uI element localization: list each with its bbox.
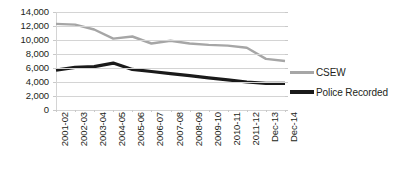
y-axis-tick-label: 12,000 <box>21 21 49 31</box>
gridline <box>56 54 285 55</box>
y-axis-tick-mark <box>53 96 56 97</box>
y-axis-tick-mark <box>53 68 56 69</box>
line-chart: 14,00012,00010,0008,0006,0004,0002,0000 … <box>0 0 402 172</box>
y-axis-tick-label: 8,000 <box>26 49 49 59</box>
y-axis-tick-label: 6,000 <box>26 63 49 73</box>
y-axis-tick-label: 2,000 <box>26 91 49 101</box>
x-axis-tick-label: 2009-10 <box>213 112 223 146</box>
x-axis-tick-mark <box>190 110 191 112</box>
y-axis-tick-mark <box>53 40 56 41</box>
x-axis-tick-mark <box>151 110 152 112</box>
x-axis-tick-mark <box>266 110 267 112</box>
y-axis-tick-label: 10,000 <box>21 35 49 45</box>
legend-label-police-recorded: Police Recorded <box>316 87 388 98</box>
x-axis-tick-label: Dec-13 <box>270 112 280 142</box>
x-axis-tick-label: Dec-14 <box>289 112 299 142</box>
y-axis-tick-mark <box>53 82 56 83</box>
gridline <box>56 96 285 97</box>
gridline <box>56 82 285 83</box>
series-line-police-recorded <box>56 63 285 83</box>
x-axis-tick-label: 2005-06 <box>136 112 146 146</box>
x-axis-tick-mark <box>75 110 76 112</box>
x-axis-tick-label: 2002-03 <box>79 112 89 146</box>
y-axis-tick-mark-right <box>285 54 288 55</box>
y-axis-tick-labels: 14,00012,00010,0008,0006,0004,0002,0000 <box>0 0 52 120</box>
x-axis-tick-label: 2007-08 <box>175 112 185 146</box>
y-axis-tick-mark-right <box>285 12 288 13</box>
plot-area <box>56 12 285 110</box>
x-axis-tick-label: 2006-07 <box>155 112 165 146</box>
x-axis-tick-mark <box>247 110 248 112</box>
y-axis-tick-label: 4,000 <box>26 77 49 87</box>
x-axis-tick-label: 2011-12 <box>251 112 261 145</box>
legend-swatch-police-recorded <box>290 90 314 94</box>
y-axis-tick-mark <box>53 54 56 55</box>
x-axis-tick-mark <box>171 110 172 112</box>
y-axis-tick-mark-right <box>285 26 288 27</box>
x-axis-tick-label: 2001-02 <box>60 112 70 146</box>
x-axis-tick-label: 2010-11 <box>232 112 242 145</box>
y-axis-tick-mark <box>53 12 56 13</box>
gridline <box>56 40 285 41</box>
y-axis-tick-mark-right <box>285 68 288 69</box>
legend-item-police-recorded: Police Recorded <box>290 82 402 102</box>
y-axis-tick-label: 0 <box>44 105 49 115</box>
gridline <box>56 26 285 27</box>
y-axis-tick-mark-right <box>285 96 288 97</box>
legend-label-csew: CSEW <box>316 67 346 78</box>
y-axis-tick-mark-right <box>285 40 288 41</box>
legend-item-csew: CSEW <box>290 62 402 82</box>
x-axis-tick-label: 2003-04 <box>98 112 108 146</box>
y-axis-tick-label: 14,000 <box>21 7 49 17</box>
y-axis-tick-mark-right <box>285 82 288 83</box>
x-axis-tick-mark <box>228 110 229 112</box>
x-axis-tick-mark <box>113 110 114 112</box>
x-axis-tick-mark <box>94 110 95 112</box>
gridline <box>56 12 285 13</box>
x-axis-tick-mark <box>285 110 286 112</box>
x-axis-tick-labels: 2001-022002-032003-042004-052005-062006-… <box>56 112 285 172</box>
chart-legend: CSEW Police Recorded <box>290 62 402 102</box>
legend-swatch-csew <box>290 71 314 74</box>
gridline <box>56 68 285 69</box>
x-axis-tick-label: 2008-09 <box>194 112 204 146</box>
x-axis-tick-mark <box>132 110 133 112</box>
y-axis-tick-mark <box>53 26 56 27</box>
x-axis-tick-mark <box>209 110 210 112</box>
x-axis-tick-label: 2004-05 <box>117 112 127 146</box>
series-line-csew <box>56 24 285 61</box>
x-axis-tick-mark <box>56 110 57 112</box>
